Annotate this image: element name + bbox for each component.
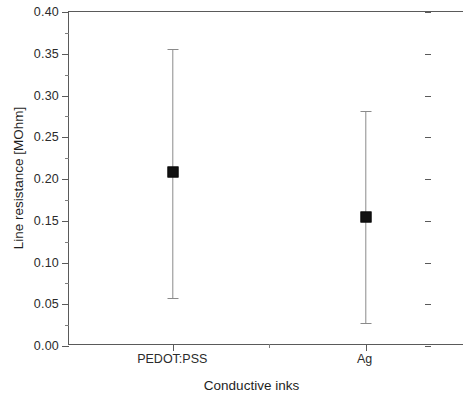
x-tick-label: PEDOT:PSS bbox=[137, 352, 207, 366]
data-point-marker bbox=[168, 167, 179, 178]
y-tick-major-right bbox=[425, 263, 431, 264]
y-tick-label: 0.30 bbox=[34, 89, 59, 103]
y-axis-title: Line resistance [MOhm] bbox=[11, 107, 26, 250]
x-axis-title: Conductive inks bbox=[0, 378, 463, 393]
y-tick-minor bbox=[65, 75, 69, 76]
y-tick-minor bbox=[65, 116, 69, 117]
y-tick-major bbox=[62, 12, 69, 13]
y-tick-major-right bbox=[425, 221, 431, 222]
y-tick-major-right bbox=[425, 179, 431, 180]
error-bar-cap-lower bbox=[360, 323, 371, 324]
y-axis-title-container: Line resistance [MOhm] bbox=[16, 0, 17, 406]
y-tick-major bbox=[62, 179, 69, 180]
y-tick-minor bbox=[65, 325, 69, 326]
plot-area: 0.400.350.300.250.200.150.100.050.00 bbox=[68, 11, 463, 345]
x-tick-label: Ag bbox=[357, 352, 372, 366]
y-tick-label: 0.40 bbox=[34, 5, 59, 19]
y-tick-major-right bbox=[425, 304, 431, 305]
y-tick-major-right bbox=[425, 96, 431, 97]
error-bar-cap-lower bbox=[168, 298, 179, 299]
y-tick-major bbox=[62, 221, 69, 222]
y-tick-label: 0.15 bbox=[34, 214, 59, 228]
y-tick-major bbox=[62, 54, 69, 55]
x-tick-major bbox=[173, 344, 174, 351]
y-tick-major-right bbox=[425, 12, 431, 13]
chart-figure: Line resistance [MOhm] 0.400.350.300.250… bbox=[0, 0, 463, 406]
y-tick-major bbox=[62, 304, 69, 305]
y-tick-minor bbox=[65, 283, 69, 284]
x-tick-major bbox=[366, 344, 367, 351]
y-tick-major bbox=[62, 96, 69, 97]
error-bar-cap-upper bbox=[360, 111, 371, 112]
y-tick-major bbox=[62, 137, 69, 138]
y-tick-label: 0.10 bbox=[34, 256, 59, 270]
y-tick-label: 0.00 bbox=[34, 339, 59, 353]
x-axis-title-text: Conductive inks bbox=[164, 378, 299, 393]
y-tick-label: 0.25 bbox=[34, 130, 59, 144]
y-tick-major-right bbox=[425, 137, 431, 138]
y-tick-label: 0.20 bbox=[34, 172, 59, 186]
y-tick-minor bbox=[65, 242, 69, 243]
y-tick-major bbox=[62, 346, 69, 347]
y-tick-minor bbox=[65, 158, 69, 159]
y-tick-label: 0.35 bbox=[34, 47, 59, 61]
error-bar-cap-upper bbox=[168, 49, 179, 50]
y-tick-minor bbox=[65, 200, 69, 201]
y-tick-minor bbox=[65, 33, 69, 34]
data-point-marker bbox=[360, 211, 371, 222]
y-tick-major-right bbox=[425, 54, 431, 55]
y-tick-major-right bbox=[425, 346, 431, 347]
x-tick-minor bbox=[269, 344, 270, 348]
y-tick-label: 0.05 bbox=[34, 297, 59, 311]
y-tick-major bbox=[62, 263, 69, 264]
